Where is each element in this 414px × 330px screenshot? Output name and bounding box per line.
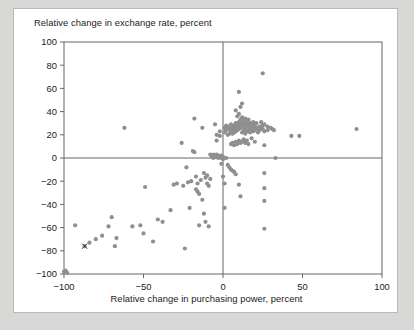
x-axis-label: Relative change in purchasing power, per… xyxy=(14,293,399,304)
axis-tick-labels: −100−80−60−40−20020406080100−100−5005010… xyxy=(36,36,390,292)
svg-text:−20: −20 xyxy=(41,176,57,187)
svg-text:100: 100 xyxy=(374,281,390,292)
svg-text:−100: −100 xyxy=(53,281,74,292)
figure-card: Relative change in exchange rate, percen… xyxy=(13,8,398,313)
scatter-plot-svg: −100−80−60−40−20020406080100−100−5005010… xyxy=(14,9,399,314)
svg-text:−60: −60 xyxy=(41,222,57,233)
svg-text:80: 80 xyxy=(47,60,57,71)
svg-text:60: 60 xyxy=(47,83,57,94)
svg-text:0: 0 xyxy=(220,281,225,292)
svg-text:100: 100 xyxy=(41,36,57,47)
plot-area: −100−80−60−40−20020406080100−100−5005010… xyxy=(14,9,399,314)
svg-text:20: 20 xyxy=(47,129,57,140)
svg-text:−80: −80 xyxy=(41,245,57,256)
data-points xyxy=(62,71,359,275)
svg-text:−40: −40 xyxy=(41,199,57,210)
svg-text:40: 40 xyxy=(47,106,57,117)
svg-text:−50: −50 xyxy=(136,281,152,292)
svg-text:−100: −100 xyxy=(36,268,57,279)
svg-text:50: 50 xyxy=(297,281,307,292)
svg-text:0: 0 xyxy=(52,152,57,163)
